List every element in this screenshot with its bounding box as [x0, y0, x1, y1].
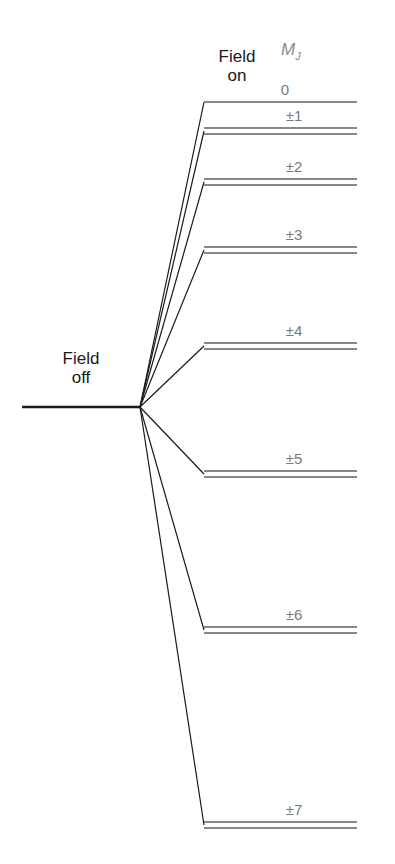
mj-value-label: ±6	[286, 606, 303, 623]
connector-line	[140, 102, 204, 407]
connector-line	[140, 182, 204, 407]
field-off-label-line2: off	[72, 368, 91, 387]
connector-line	[140, 346, 204, 407]
connector-line	[140, 407, 204, 825]
mj-value-label: ±1	[286, 107, 303, 124]
field-off-label-line1: Field	[63, 349, 100, 368]
mj-value-label: ±5	[286, 450, 303, 467]
field-on-label-line1: Field	[219, 47, 256, 66]
level-mj-3: ±3	[204, 226, 357, 253]
stark-splitting-diagram: Field off Field on MJ 0±1±2±3±4±5±6±7	[0, 0, 395, 864]
connector-lines	[140, 102, 204, 825]
connector-line	[140, 250, 204, 407]
level-mj-6: ±6	[204, 606, 357, 633]
field-on-header: Field on MJ	[219, 40, 302, 85]
level-mj-1: ±1	[204, 107, 357, 134]
field-on-label-line2: on	[228, 66, 247, 85]
mj-value-label: ±4	[286, 322, 303, 339]
level-mj-2: ±2	[204, 158, 357, 185]
level-mj-4: ±4	[204, 322, 357, 349]
mj-value-label: ±3	[286, 226, 303, 243]
mj-value-label: ±7	[286, 801, 303, 818]
field-off-group: Field off	[22, 349, 140, 407]
mj-axis-label: MJ	[281, 40, 301, 62]
mj-value-label: 0	[281, 81, 289, 98]
field-on-levels: 0±1±2±3±4±5±6±7	[204, 81, 357, 828]
mj-value-label: ±2	[286, 158, 303, 175]
level-mj-7: ±7	[204, 801, 357, 828]
level-mj-5: ±5	[204, 450, 357, 477]
connector-line	[140, 131, 204, 407]
